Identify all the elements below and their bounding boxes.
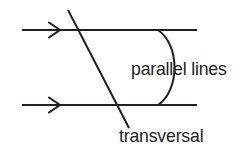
parallel-lines-label: parallel lines xyxy=(131,58,227,80)
transversal-line xyxy=(68,10,129,128)
parallel-lines-transversal-figure: parallel lines transversal xyxy=(0,0,250,154)
transversal-label: transversal xyxy=(119,125,203,147)
